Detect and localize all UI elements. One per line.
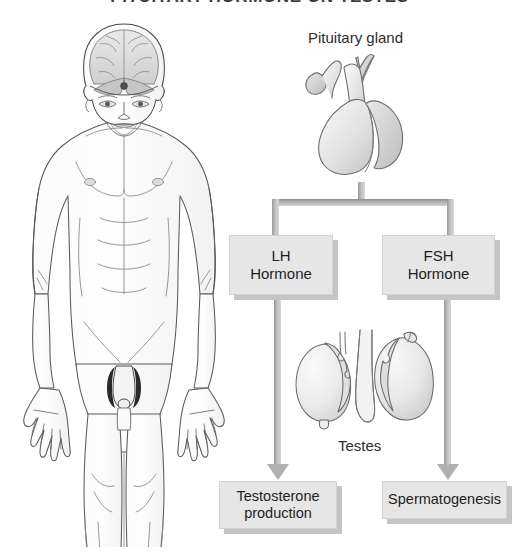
testosterone-box-text: Testosterone production [236,488,319,522]
testes-label: Testes [338,437,381,454]
connector-drop-left [272,199,279,237]
connector-horizontal-bracket [272,199,454,206]
arrow-shaft-right [444,300,451,466]
spermatogenesis-label-line1: Spermatogenesis [388,491,501,508]
testosterone-label-line1: Testosterone [236,488,319,505]
lh-hormone-box[interactable]: LH Hormone [229,235,333,295]
lh-label-line1: LH [250,247,312,265]
head-with-brain [84,24,165,136]
spermatogenesis-box-text: Spermatogenesis [388,491,501,508]
arrow-down-icon-left [267,464,289,480]
pituitary-svg [300,50,460,190]
lh-hormone-box-text: LH Hormone [250,247,312,282]
connector-drop-right [447,199,454,237]
spermatogenesis-box[interactable]: Spermatogenesis [382,481,507,519]
page-title: PITUITARY HORMONE ON TESTES [0,0,519,7]
testes-illustration [292,328,442,440]
testes-svg [292,328,442,440]
testosterone-production-box[interactable]: Testosterone production [219,481,337,529]
arrow-shaft-left [274,300,281,466]
pituitary-gland-illustration [300,50,460,190]
lh-label-line2: Hormone [250,265,312,283]
diagram-canvas: PITUITARY HORMONE ON TESTES [0,0,519,554]
arrow-down-icon-right [437,464,459,480]
fsh-hormone-box[interactable]: FSH Hormone [382,235,495,295]
male-body-figure [14,22,234,547]
body-figure-svg [14,22,234,547]
testosterone-label-line2: production [236,505,319,522]
fsh-label-line1: FSH [408,247,470,265]
pituitary-gland-label: Pituitary gland [308,29,403,46]
fsh-label-line2: Hormone [408,265,470,283]
fsh-hormone-box-text: FSH Hormone [408,247,470,282]
